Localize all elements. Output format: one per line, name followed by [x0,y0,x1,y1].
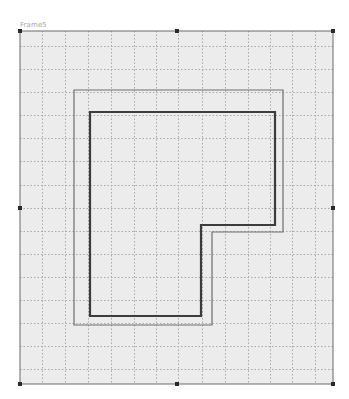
handle-bottom-left[interactable] [18,382,22,386]
frame-area[interactable] [20,31,333,384]
handle-middle-left[interactable] [18,206,22,210]
handle-bottom-middle[interactable] [175,382,179,386]
drawing-canvas[interactable] [0,0,349,399]
handle-bottom-right[interactable] [331,382,335,386]
handle-top-left[interactable] [18,29,22,33]
handle-top-right[interactable] [331,29,335,33]
handle-top-middle[interactable] [175,29,179,33]
handle-middle-right[interactable] [331,206,335,210]
